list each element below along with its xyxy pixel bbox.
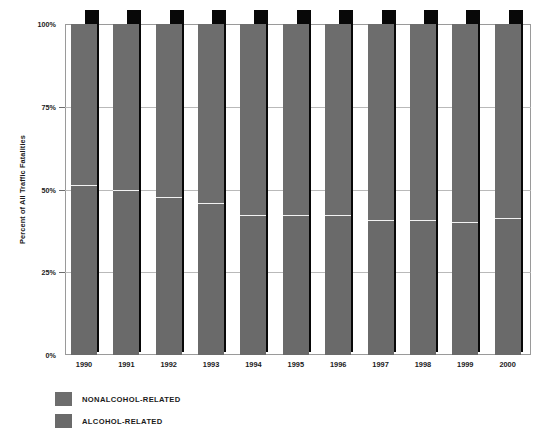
bar-front[interactable] (452, 24, 478, 355)
x-axis-tick-label: 1999 (443, 360, 487, 369)
x-axis-tick-label: 1993 (189, 360, 233, 369)
bar-segment-alcohol-related[interactable] (410, 220, 436, 355)
x-axis-tick-label: 1995 (274, 360, 318, 369)
chart-figure: Percent of All Traffic Fatalities 100%75… (0, 0, 547, 437)
x-axis-tick-label: 1996 (316, 360, 360, 369)
x-axis-tick-label: 1998 (401, 360, 445, 369)
chart-legend: NONALCOHOL-RELATEDALCOHOL-RELATED (55, 389, 181, 433)
legend-item[interactable]: NONALCOHOL-RELATED (55, 389, 181, 409)
bar-front[interactable] (410, 24, 436, 355)
bar-front[interactable] (368, 24, 394, 355)
bar-segment-alcohol-related[interactable] (198, 203, 224, 355)
bar-group[interactable] (113, 0, 151, 360)
legend-label: NONALCOHOL-RELATED (82, 395, 181, 404)
bar-segment-alcohol-related[interactable] (113, 190, 139, 355)
x-axis-tick-label: 1991 (104, 360, 148, 369)
bar-front[interactable] (240, 24, 266, 355)
bar-front[interactable] (283, 24, 309, 355)
bar-segment-alcohol-related[interactable] (240, 215, 266, 355)
bar-group[interactable] (452, 0, 490, 360)
x-axis-tick-label: 1997 (359, 360, 403, 369)
bar-segment-alcohol-related[interactable] (452, 222, 478, 355)
bar-front[interactable] (71, 24, 97, 355)
bar-group[interactable] (240, 0, 278, 360)
bar-group[interactable] (71, 0, 109, 360)
bar-group[interactable] (283, 0, 321, 360)
x-axis-tick-label: 1992 (147, 360, 191, 369)
x-axis-tick-label: 1994 (231, 360, 275, 369)
bar-group[interactable] (198, 0, 236, 360)
bar-group[interactable] (368, 0, 406, 360)
bar-group[interactable] (325, 0, 363, 360)
bar-segment-alcohol-related[interactable] (495, 218, 521, 355)
bar-segment-alcohol-related[interactable] (71, 185, 97, 355)
bar-front[interactable] (156, 24, 182, 355)
y-axis-tick-label: 75% (20, 103, 56, 112)
legend-swatch (55, 414, 72, 428)
legend-item[interactable]: ALCOHOL-RELATED (55, 411, 181, 431)
bar-segment-alcohol-related[interactable] (325, 215, 351, 355)
y-axis-tick-label: 50% (20, 186, 56, 195)
bar-group[interactable] (410, 0, 448, 360)
legend-label: ALCOHOL-RELATED (82, 417, 163, 426)
bar-front[interactable] (325, 24, 351, 355)
bar-segment-alcohol-related[interactable] (283, 215, 309, 355)
bar-segment-alcohol-related[interactable] (156, 197, 182, 355)
y-axis-tick-label: 0% (20, 351, 56, 360)
x-axis-tick-label: 2000 (486, 360, 530, 369)
bar-front[interactable] (495, 24, 521, 355)
x-axis-tick-label: 1990 (62, 360, 106, 369)
legend-swatch (55, 392, 72, 406)
bar-front[interactable] (113, 24, 139, 355)
y-axis-tick-label: 25% (20, 268, 56, 277)
bar-segment-alcohol-related[interactable] (368, 220, 394, 355)
bar-front[interactable] (198, 24, 224, 355)
y-axis-tick-label: 100% (20, 20, 56, 29)
bars-layer (65, 0, 533, 360)
bar-group[interactable] (495, 0, 533, 360)
bar-group[interactable] (156, 0, 194, 360)
